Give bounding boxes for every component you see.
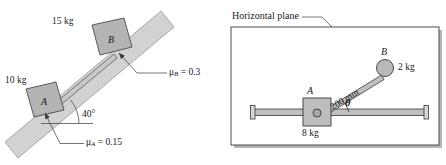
sphere-b-letter: B <box>381 47 387 57</box>
mu-a-equals: = <box>95 137 105 147</box>
mu-b-value: 0.3 <box>188 67 200 77</box>
theta-label: θ <box>345 98 350 109</box>
mass-8kg-label: 8 kg <box>302 129 319 139</box>
pivot-joint <box>313 109 321 117</box>
block-a-letter-right: A <box>307 86 313 96</box>
horizontal-plane-panel <box>231 27 439 145</box>
horizontal-plane-caption: Horizontal plane <box>232 11 299 21</box>
left-panel-group <box>5 11 174 158</box>
mass-2kg-label: 2 kg <box>398 63 415 73</box>
angle-40-label: 40° <box>82 110 95 120</box>
mu-b-label: μB = 0.3 <box>169 68 200 78</box>
sphere-b <box>377 60 394 77</box>
block-b-letter: B <box>108 35 114 45</box>
mass-b-label: 15 kg <box>52 17 73 27</box>
right-panel-group <box>231 17 442 148</box>
leader-horizontal-plane <box>302 17 332 27</box>
mu-a-label: μA = 0.15 <box>86 138 122 148</box>
mass-a-label: 10 kg <box>5 76 26 86</box>
mu-a-value: 0.15 <box>105 137 122 147</box>
block-a-letter: A <box>41 97 47 107</box>
incline-surface <box>5 11 174 158</box>
mu-b-equals: = <box>178 67 188 77</box>
